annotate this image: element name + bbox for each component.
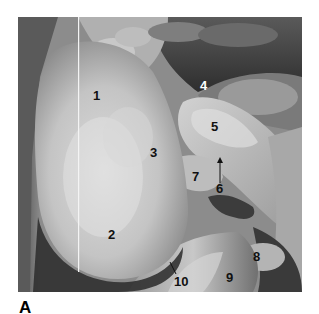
label-9: 9 bbox=[226, 271, 233, 284]
label-2: 2 bbox=[108, 228, 115, 241]
panel-letter: A bbox=[19, 299, 31, 314]
label-4: 4 bbox=[200, 79, 207, 92]
label-8: 8 bbox=[253, 250, 260, 263]
label-10: 10 bbox=[174, 275, 188, 288]
label-7: 7 bbox=[192, 170, 199, 183]
label-5: 5 bbox=[211, 120, 218, 133]
anatomy-figure: 1 2 3 4 5 6 7 8 9 10 A bbox=[0, 0, 319, 314]
label-3: 3 bbox=[150, 146, 157, 159]
label-1: 1 bbox=[93, 89, 100, 102]
label-6: 6 bbox=[216, 182, 223, 195]
